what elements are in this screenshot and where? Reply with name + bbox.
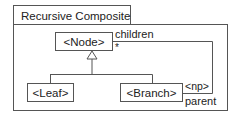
class-node: <Node> [56,33,113,51]
leaf-label: <Leaf> [33,87,69,99]
parent-role-label: parent [185,95,216,107]
class-leaf: <Leaf> [28,84,74,102]
parent-qualifier-label: <np> [185,80,209,92]
class-branch: <Branch> [121,84,183,102]
branch-label: <Branch> [127,87,177,99]
package-title: Recursive Composite [21,10,130,22]
children-multiplicity-label: * [115,42,119,53]
generalization-arrow-icon [87,51,97,59]
children-role-label: children [115,28,154,40]
recursive-composite-diagram: Recursive Composite <Node> <Leaf> <Branc… [0,0,240,115]
node-label: <Node> [64,36,105,48]
